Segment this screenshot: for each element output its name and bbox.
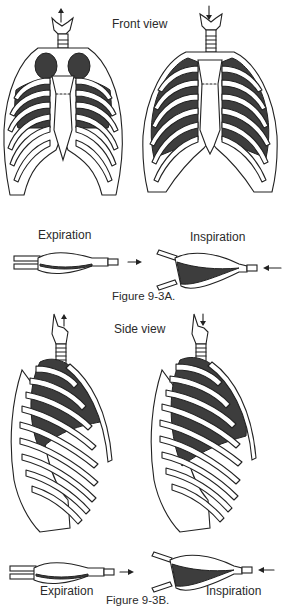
bellows-a-inspiration-label: Inspiration [190, 230, 245, 244]
figure-9-3b-caption: Figure 9-3B. [106, 594, 169, 606]
front-ribcage-inspiration [140, 0, 286, 200]
arrow-right-icon [128, 259, 142, 265]
side-ribcage-inspiration [140, 310, 270, 540]
bellows-b-expiration-label: Expiration [40, 584, 93, 598]
arrow-left-icon [258, 567, 274, 573]
side-ribcage-expiration [0, 310, 130, 540]
up-arrow-icon [58, 8, 64, 22]
down-arrow-icon [206, 6, 212, 20]
figure-9-3a-caption: Figure 9-3A. [112, 290, 175, 302]
arrow-left-icon [263, 265, 281, 271]
front-ribcage-expiration [0, 0, 140, 200]
up-arrow-icon [61, 314, 67, 326]
arrow-right-icon [120, 569, 134, 575]
bellows-b-inspiration-label: Inspiration [206, 584, 261, 598]
bellows-a-expiration [12, 250, 142, 280]
bellows-a-expiration-label: Expiration [38, 228, 91, 242]
down-arrow-icon [200, 314, 206, 326]
bellows-a-inspiration [155, 246, 286, 296]
